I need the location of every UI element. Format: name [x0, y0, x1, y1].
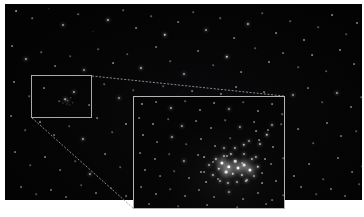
magnified-cluster-inset[interactable]: [133, 96, 285, 209]
region-of-interest-box[interactable]: [31, 75, 92, 118]
inset-sky-background: [134, 97, 284, 208]
astronomy-figure: [0, 0, 364, 217]
